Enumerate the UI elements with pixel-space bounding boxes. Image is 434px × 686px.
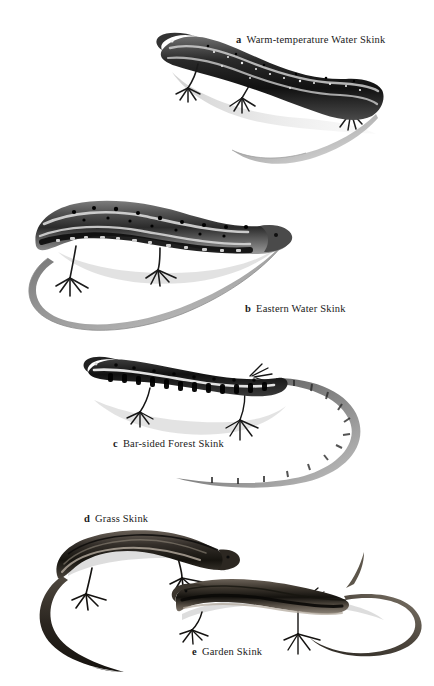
figure-e-hind-limb [284, 608, 320, 654]
figure-d-tail [40, 576, 124, 672]
figure-d-hind-limb [72, 568, 106, 610]
caption-figure-e: eGarden Skink [192, 646, 262, 657]
caption-letter-c: c [113, 438, 118, 449]
caption-letter-a: a [236, 34, 241, 45]
caption-label-a: Warm-temperature Water Skink [246, 34, 385, 45]
caption-figure-d: dGrass Skink [84, 513, 148, 524]
figure-c-bar-sided-forest-skink [80, 352, 380, 502]
caption-letter-b: b [245, 303, 251, 314]
figure-a-warm-temperature-water-skink [150, 22, 390, 192]
caption-label-c: Bar-sided Forest Skink [123, 438, 224, 449]
figure-a-body [156, 33, 383, 120]
caption-label-b: Eastern Water Skink [256, 303, 346, 314]
figure-a-front-limb-left [176, 64, 200, 102]
caption-figure-c: cBar-sided Forest Skink [113, 438, 224, 449]
caption-figure-b: bEastern Water Skink [245, 303, 346, 314]
figure-c-shadow [94, 400, 286, 435]
caption-letter-e: e [192, 646, 197, 657]
caption-letter-d: d [84, 513, 90, 524]
caption-label-d: Grass Skink [95, 513, 148, 524]
caption-label-e: Garden Skink [202, 646, 262, 657]
caption-figure-a: aWarm-temperature Water Skink [236, 34, 385, 45]
skink-illustration-plate: aWarm-temperature Water Skink [0, 0, 434, 686]
figure-b-body [35, 201, 292, 254]
